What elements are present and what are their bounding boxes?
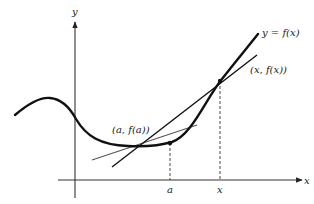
derivative-diagram: y x a x y = f(x) (x, f(x)) (a, f(a)) [0, 0, 314, 204]
point-a [168, 141, 172, 145]
curve-label: y = f(x) [261, 27, 300, 38]
secant-line [112, 55, 257, 167]
x-axis-label: x [304, 175, 310, 186]
point-x [218, 79, 222, 83]
tick-label-a: a [167, 184, 173, 195]
tick-label-x: x [217, 184, 223, 195]
point-x-label: (x, f(x)) [250, 64, 287, 75]
y-axis-label: y [71, 6, 78, 17]
point-a-label: (a, f(a)) [112, 124, 150, 135]
